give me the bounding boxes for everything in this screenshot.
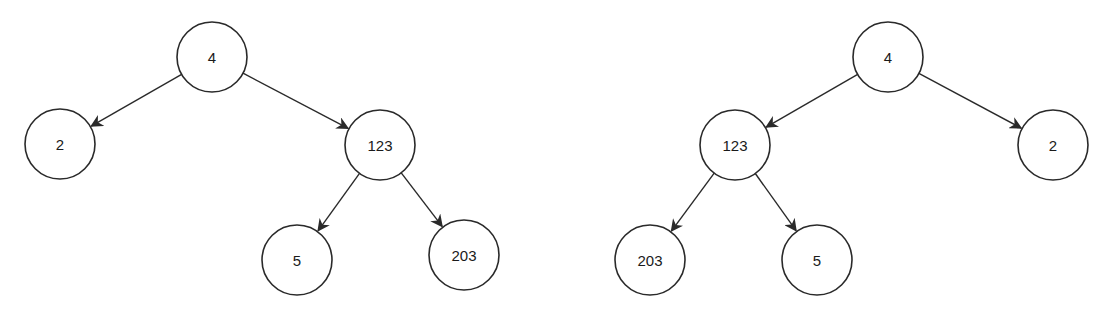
tree-node: 123 xyxy=(700,110,770,180)
node-label: 5 xyxy=(293,252,301,269)
edge-arrow xyxy=(401,173,442,227)
node-label: 203 xyxy=(637,252,662,269)
tree-node: 5 xyxy=(782,225,852,295)
node-label: 2 xyxy=(56,136,64,153)
nodes-layer: 421235203412322035 xyxy=(25,22,1088,295)
node-label: 123 xyxy=(367,137,392,154)
edge-arrow xyxy=(671,173,714,231)
original-tree-nodes: 421235203 xyxy=(25,22,499,295)
tree-diagram-canvas: 421235203412322035 xyxy=(0,0,1116,322)
tree-node: 2 xyxy=(25,109,95,179)
edges-layer xyxy=(91,73,1021,231)
node-label: 4 xyxy=(884,49,892,66)
tree-node: 203 xyxy=(615,225,685,295)
tree-node: 2 xyxy=(1018,110,1088,180)
node-label: 2 xyxy=(1049,137,1057,154)
tree-node: 203 xyxy=(429,220,499,290)
edge-arrow xyxy=(919,73,1021,128)
mirrored-tree-nodes: 412322035 xyxy=(615,22,1088,295)
node-label: 203 xyxy=(451,247,476,264)
node-label: 4 xyxy=(208,49,216,66)
edge-arrow xyxy=(766,74,857,127)
edge-arrow xyxy=(91,74,181,126)
tree-node: 123 xyxy=(345,110,415,180)
edge-arrow xyxy=(243,73,348,128)
tree-node: 4 xyxy=(853,22,923,92)
edge-arrow xyxy=(755,173,796,230)
tree-node: 4 xyxy=(177,22,247,92)
node-label: 123 xyxy=(722,137,747,154)
edge-arrow xyxy=(318,173,359,230)
tree-node: 5 xyxy=(262,225,332,295)
node-label: 5 xyxy=(813,252,821,269)
